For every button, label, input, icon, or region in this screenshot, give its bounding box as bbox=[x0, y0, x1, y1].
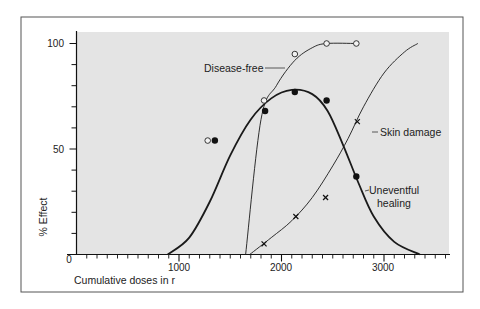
x-tick-label-3000: 3000 bbox=[372, 262, 395, 273]
x-axis-title: Cumulative doses in r bbox=[74, 274, 175, 286]
marker-disease-free bbox=[324, 41, 330, 47]
marker-uneventful-healing bbox=[262, 108, 268, 114]
y-tick-label-50: 50 bbox=[53, 144, 65, 155]
chart-figure: 0 1000 2000 3000 50 100 Cumulative doses… bbox=[0, 0, 480, 309]
marker-uneventful-healing bbox=[292, 89, 298, 95]
marker-disease-free bbox=[292, 51, 298, 57]
annotation-skin-damage: Skin damage bbox=[380, 126, 441, 138]
annotation-healing: healing bbox=[377, 197, 411, 209]
marker-disease-free bbox=[261, 98, 267, 104]
x-tick-label-2000: 2000 bbox=[270, 262, 293, 273]
y-tick-label-100: 100 bbox=[47, 38, 64, 49]
marker-uneventful-healing bbox=[353, 173, 359, 179]
marker-disease-free bbox=[205, 138, 211, 144]
annotation-disease-free: Disease-free bbox=[204, 62, 264, 74]
x-tick-label-1000: 1000 bbox=[168, 262, 191, 273]
annotation-uneventful: Uneventful bbox=[369, 184, 419, 196]
marker-uneventful-healing bbox=[323, 97, 329, 103]
y-axis-title: % Effect bbox=[37, 197, 49, 236]
marker-disease-free bbox=[354, 41, 360, 47]
x-tick-label-0: 0 bbox=[66, 254, 72, 265]
marker-uneventful-healing bbox=[212, 137, 218, 143]
